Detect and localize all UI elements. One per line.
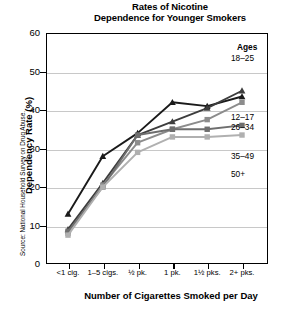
series-line: [68, 102, 242, 233]
data-point-square: [205, 117, 210, 122]
nicotine-dependence-chart: Rates of Nicotine Dependence for Younger…: [0, 0, 307, 313]
legend-item-26-34: 26–34: [231, 123, 254, 132]
data-point-square: [205, 127, 210, 132]
data-point-square: [205, 134, 210, 139]
data-point-square: [170, 127, 175, 132]
legend-heading: Ages: [237, 43, 257, 52]
series-35-49: [65, 123, 244, 234]
series-line: [68, 135, 242, 235]
series-18-25: [65, 87, 246, 232]
data-point-triangle: [239, 87, 246, 93]
data-point-square: [239, 132, 244, 137]
data-point-square: [65, 232, 70, 237]
legend-item-18-25: 18–25: [231, 54, 254, 63]
legend-item-12-17: 12–17: [231, 113, 254, 122]
data-point-square: [135, 150, 140, 155]
series-line: [68, 125, 242, 231]
data-point-square: [239, 100, 244, 105]
data-point-square: [170, 134, 175, 139]
series-50: [65, 132, 244, 237]
data-series-layer: [0, 0, 307, 313]
data-point-square: [135, 140, 140, 145]
data-point-square: [135, 132, 140, 137]
data-point-square: [100, 184, 105, 189]
series-line: [68, 91, 242, 230]
legend-item-35-49: 35–49: [231, 152, 254, 161]
legend-item-50-plus: 50+: [231, 170, 245, 179]
series-26-34: [65, 100, 244, 236]
